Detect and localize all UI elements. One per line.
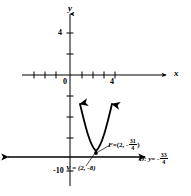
- directrix-fraction: 334: [160, 152, 168, 165]
- x-axis: [22, 72, 166, 79]
- parabola-figure: y x 4 -10 0 4 F=(2, -314) V = (2, -8) D:…: [0, 0, 191, 196]
- focus-label-open: (2, -: [117, 141, 129, 149]
- focus-label: F=(2, -314): [108, 138, 140, 151]
- directrix-label: D: y= -334: [139, 152, 168, 165]
- focus-label-close: ): [137, 141, 139, 149]
- y-axis-tick-label-minus-10: -10: [53, 167, 64, 175]
- directrix-fraction-denominator: 4: [160, 159, 168, 165]
- y-axis-label: y: [68, 4, 72, 13]
- x-axis-tick-label-4: 4: [110, 78, 114, 86]
- y-axis-tick-label-4: 4: [58, 29, 62, 37]
- focus-fraction-numerator: 31: [129, 138, 137, 145]
- y-axis: [67, 14, 74, 186]
- directrix-label-colon: :: [144, 155, 146, 163]
- origin-tick-label: 0: [63, 78, 67, 86]
- x-axis-label: x: [174, 69, 179, 78]
- directrix-fraction-numerator: 33: [160, 152, 168, 159]
- vertex-label: V = (2, -8): [66, 165, 96, 172]
- focus-fraction: 314: [129, 138, 137, 151]
- focus-fraction-denominator: 4: [129, 145, 137, 151]
- directrix-label-equals: = -: [151, 155, 159, 163]
